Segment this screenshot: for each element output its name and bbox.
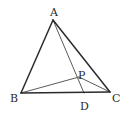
triangle-outline-segments <box>21 20 110 93</box>
geometry-figure: A B C D P <box>0 0 124 117</box>
vertex-label-b: B <box>10 93 18 104</box>
segment-bc <box>21 92 110 93</box>
vertex-label-c: C <box>112 93 120 104</box>
segment-bp <box>21 77 79 93</box>
vertex-label-a: A <box>50 7 58 18</box>
geometry-figure-canvas <box>0 0 124 117</box>
segment-ad <box>53 20 84 93</box>
vertex-label-p: P <box>78 70 85 81</box>
segment-ab <box>21 20 53 93</box>
cevian-segments <box>21 20 110 93</box>
vertex-label-d: D <box>80 101 89 112</box>
